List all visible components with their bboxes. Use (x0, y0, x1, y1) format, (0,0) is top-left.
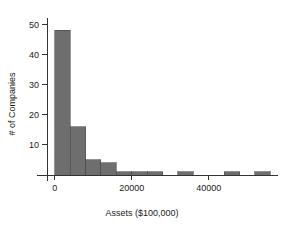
y-axis-title: # of Companies (7, 72, 17, 136)
x-tick-label: 20000 (119, 183, 144, 193)
x-tick-label: 0 (52, 183, 57, 193)
y-tick-label: 10 (29, 140, 39, 150)
y-tick-label: 20 (29, 110, 39, 120)
histogram-bar (86, 160, 101, 175)
chart-canvas: 1020304050 02000040000 Assets ($100,000)… (0, 0, 285, 226)
y-tick-label: 50 (29, 20, 39, 30)
x-tick-label: 40000 (196, 183, 221, 193)
histogram-chart: 1020304050 02000040000 Assets ($100,000)… (0, 0, 285, 226)
y-tick-label: 40 (29, 50, 39, 60)
histogram-bar (55, 30, 70, 175)
y-tick-label: 30 (29, 80, 39, 90)
histogram-bar (70, 127, 85, 175)
histogram-bar (101, 163, 116, 175)
x-axis-title: Assets ($100,000) (105, 208, 178, 218)
